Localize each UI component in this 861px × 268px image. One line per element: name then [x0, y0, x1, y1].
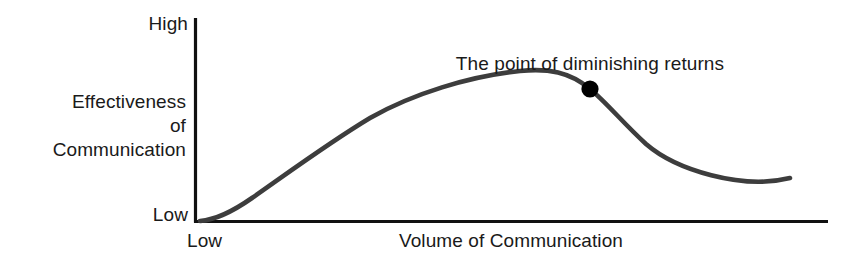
- diminishing-returns-point-marker: [581, 80, 598, 97]
- effectiveness-curve: [200, 70, 790, 221]
- diminishing-returns-annotation-label: The point of diminishing returns: [400, 52, 780, 75]
- y-axis-low-tick-label: Low: [153, 203, 188, 226]
- y-axis-title-line-3: Communication: [53, 138, 186, 162]
- diminishing-returns-figure: High Effectiveness of Communication Low …: [0, 0, 861, 268]
- y-axis-high-tick-label: High: [149, 12, 188, 35]
- y-axis-title: Effectiveness of Communication: [53, 90, 186, 162]
- y-axis-title-line-1: Effectiveness: [53, 90, 186, 114]
- y-axis-title-line-2: of: [53, 114, 186, 138]
- x-axis-title: Volume of Communication: [194, 229, 828, 252]
